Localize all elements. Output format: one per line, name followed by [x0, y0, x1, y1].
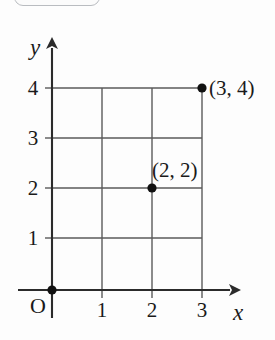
figure-container: 4 3 2 1 1 2 3 O y x (3, 4) (2, 2)	[0, 0, 275, 340]
point-3-4	[197, 83, 206, 92]
x-tick-label-2: 2	[147, 298, 158, 322]
y-axis-label: y	[28, 35, 41, 60]
x-tick-label-3: 3	[197, 298, 208, 322]
y-tick-label-3: 3	[28, 126, 39, 150]
y-tick-label-1: 1	[28, 226, 39, 250]
point-2-2	[147, 183, 156, 192]
x-axis-ticks	[102, 290, 202, 298]
x-axis-arrowhead-icon	[229, 284, 241, 296]
x-tick-label-1: 1	[97, 298, 108, 322]
coordinate-plane-figure: 4 3 2 1 1 2 3 O y x (3, 4) (2, 2)	[0, 0, 275, 340]
y-tick-label-4: 4	[28, 76, 39, 100]
origin-label: O	[30, 293, 46, 318]
point-label-2-2: (2, 2)	[152, 158, 198, 182]
point-label-3-4: (3, 4)	[209, 76, 255, 100]
y-axis-arrowhead-icon	[46, 37, 58, 49]
point-origin	[47, 285, 56, 294]
x-axis-label: x	[232, 300, 244, 325]
data-points	[47, 83, 206, 294]
y-tick-label-2: 2	[28, 176, 39, 200]
y-axis	[46, 37, 58, 318]
